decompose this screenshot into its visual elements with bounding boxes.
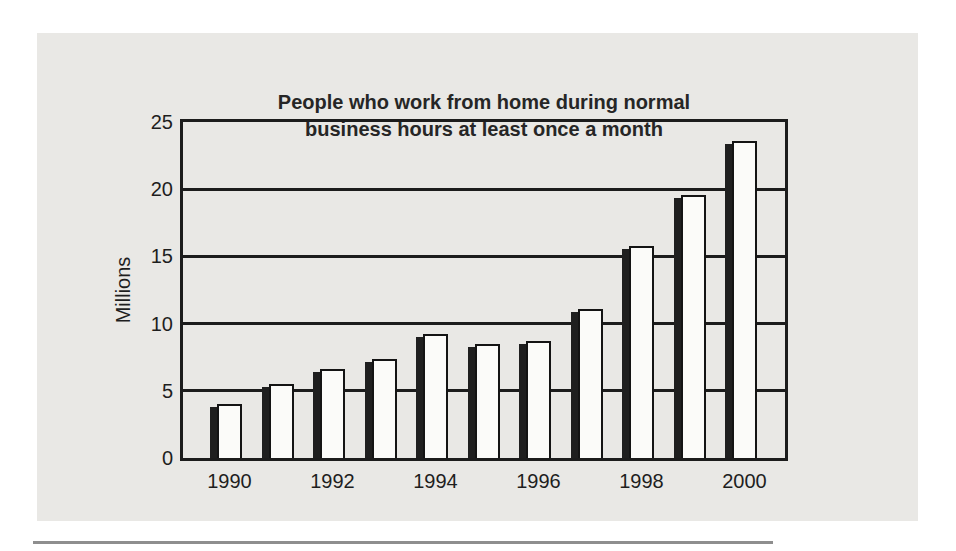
chart-title-line-1: People who work from home during normal (183, 89, 785, 116)
bar-1999 (681, 195, 706, 458)
bar-2000 (732, 141, 757, 458)
bar-1996 (526, 341, 551, 458)
y-tick-label-0: 0 (103, 445, 173, 471)
bar-1990 (217, 404, 242, 458)
x-tick-label-1990: 1990 (185, 469, 275, 493)
bar-1994 (423, 334, 448, 458)
plot-area (180, 119, 788, 461)
x-tick-label-1994: 1994 (391, 469, 481, 493)
bar-1998 (629, 246, 654, 458)
bar-1993 (372, 359, 397, 458)
x-tick-label-1992: 1992 (288, 469, 378, 493)
bar-1995 (475, 344, 500, 458)
page: People who work from home during normal … (0, 0, 956, 551)
x-tick-label-1996: 1996 (494, 469, 584, 493)
x-tick-label-1998: 1998 (597, 469, 687, 493)
y-tick-label-10: 10 (103, 311, 173, 337)
bottom-rule (33, 541, 773, 544)
bar-1992 (320, 369, 345, 458)
y-tick-label-5: 5 (103, 378, 173, 404)
bar-1991 (269, 384, 294, 458)
gridline-20 (183, 188, 785, 191)
y-tick-label-20: 20 (103, 176, 173, 202)
bar-1997 (578, 309, 603, 458)
x-tick-label-2000: 2000 (700, 469, 790, 493)
y-axis-title: Millions (110, 220, 136, 360)
y-tick-label-25: 25 (103, 109, 173, 135)
y-tick-label-15: 15 (103, 243, 173, 269)
chart-panel: People who work from home during normal … (37, 33, 918, 521)
